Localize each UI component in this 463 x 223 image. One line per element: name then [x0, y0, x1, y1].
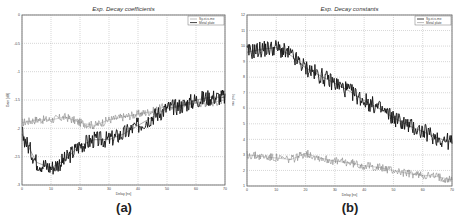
y-tick-label: 3	[243, 153, 245, 157]
chart-b: Exp. Decay constants01020304050607012111…	[232, 0, 463, 200]
y-tick-label: 5	[243, 122, 245, 126]
chart-panel-a: Exp. Decay coefficients0102030405060700-…	[0, 0, 232, 200]
chart-panel-b: Exp. Decay constants01020304050607012111…	[232, 0, 463, 200]
x-tick-label: 40	[362, 188, 366, 192]
y-tick-label: -1	[17, 70, 20, 74]
y-axis-label: Tau [ns]	[232, 94, 235, 106]
x-tick-label: 70	[450, 188, 454, 192]
x-tick-label: 30	[107, 187, 111, 191]
y-tick-label: -1.5	[14, 98, 20, 102]
x-tick-label: 60	[421, 188, 425, 192]
y-tick-label: 11	[241, 29, 245, 33]
x-tick-label: 50	[165, 187, 169, 191]
x-tick-label: 20	[304, 188, 308, 192]
chart-a: Exp. Decay coefficients0102030405060700-…	[0, 0, 232, 200]
x-tick-label: 0	[246, 188, 248, 192]
y-tick-label: 0	[18, 13, 20, 17]
caption-b: (b)	[330, 200, 370, 215]
y-tick-label: -2	[17, 127, 20, 131]
x-tick-label: 20	[78, 187, 82, 191]
x-tick-label: 10	[49, 187, 53, 191]
chart-title: Exp. Decay coefficients	[92, 6, 154, 12]
y-tick-label: 12	[241, 13, 245, 17]
y-tick-label: -0.5	[14, 42, 20, 46]
legend: Sy-st-s-meMetal plate	[415, 16, 451, 25]
x-tick-label: 50	[391, 188, 395, 192]
x-axis-label: Delay [ns]	[116, 192, 132, 196]
x-tick-label: 10	[274, 188, 278, 192]
legend-label: Metal plate	[426, 21, 442, 25]
y-tick-label: 6	[243, 106, 245, 110]
caption-a: (a)	[104, 200, 144, 215]
chart-title: Exp. Decay constants	[320, 6, 378, 12]
x-tick-label: 0	[21, 187, 23, 191]
y-tick-label: 4	[243, 138, 245, 142]
y-axis-label: Gain [dB]	[6, 93, 10, 108]
x-axis-label: Delay [ns]	[342, 193, 358, 197]
legend: Sy-st-s-meMetal plate	[188, 16, 224, 25]
legend-label: Metal plate	[199, 21, 215, 25]
y-tick-label: 9	[243, 60, 245, 64]
x-tick-label: 30	[333, 188, 337, 192]
y-tick-label: -2.5	[14, 155, 20, 159]
x-tick-label: 70	[223, 187, 227, 191]
y-tick-label: -3	[17, 183, 20, 187]
y-tick-label: 7	[243, 91, 245, 95]
x-tick-label: 40	[136, 187, 140, 191]
y-tick-label: 2	[243, 169, 245, 173]
y-tick-label: 1	[243, 184, 245, 188]
y-tick-label: 8	[243, 75, 245, 79]
y-tick-label: 10	[241, 44, 245, 48]
x-tick-label: 60	[194, 187, 198, 191]
